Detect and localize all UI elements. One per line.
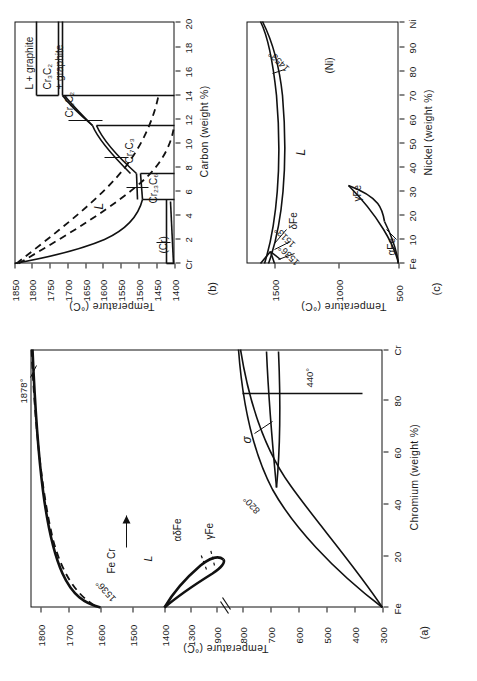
panel-a-ytick-label: 500	[322, 627, 332, 643]
panel-c-xtick-label: 10	[407, 234, 417, 245]
panel-c-xtick-label: 20	[407, 210, 417, 221]
panel-c-xtick	[399, 46, 404, 47]
panel-a-phase-fecr: Fe Cr	[106, 548, 116, 573]
panel-b-xtick	[175, 118, 180, 119]
panel-c-phase-gamma-fe: γFe	[352, 184, 362, 201]
panel-a-ytick	[100, 607, 101, 612]
panel-a-ytick-label: 1600	[96, 624, 106, 646]
figure-page: 300 400 500 600 700 800 900 1300 1400 15…	[0, 0, 477, 681]
panel-a-xtick	[383, 555, 388, 556]
panel-b-phase-cr3c2-graphite-line1: Cr₃C₂	[42, 63, 52, 89]
panel-a-ytick-label: 1500	[128, 624, 138, 646]
panel-b-xtick	[175, 214, 180, 215]
figure-canvas: 300 400 500 600 700 800 900 1300 1400 15…	[0, 0, 477, 681]
panel-b-xtick	[175, 166, 180, 167]
panel-b-phase-cr7c3: Cr₇C₃	[124, 138, 134, 163]
panel-b-y-axis-title: Temperature (°C)	[69, 301, 154, 312]
panel-b-ytick-label: 1500	[134, 279, 144, 301]
panel-a-label-440: 440°	[304, 367, 314, 387]
panel-c-xtick	[399, 70, 404, 71]
panel-a-ytick	[298, 607, 299, 612]
panel-b-xtick-label: 18	[183, 42, 193, 53]
panel-c-fe-ni: 500 1000 1500 Fe 10 20 30 40 50 60 70 80…	[238, 5, 466, 325]
panel-a-ytick	[242, 607, 243, 612]
panel-a-y-axis-title: Temperature (°C)	[183, 643, 268, 654]
panel-b-phase-cr23c6: Cr₂₃C₆	[148, 173, 158, 203]
panel-a-ytick	[270, 607, 271, 612]
panel-b-ytick	[85, 263, 86, 268]
panel-b-ytick	[14, 263, 15, 268]
panel-b-xtick	[175, 142, 180, 143]
panel-b-ytick-label: 1700	[63, 279, 73, 301]
panel-c-phase-liquid: L	[294, 148, 306, 155]
panel-a-ytick-label: 1700	[64, 624, 74, 646]
panel-a-ytick	[164, 607, 165, 612]
panel-c-xtick-label: Ni	[407, 19, 417, 28]
panel-c-xtick	[399, 118, 404, 119]
panel-a-phase-liquid: L	[142, 555, 153, 561]
panel-a-ytick-label: 1400	[160, 624, 170, 646]
panel-c-xtick	[399, 238, 404, 239]
panel-b-ytick	[138, 263, 139, 268]
panel-b-xtick	[175, 190, 180, 191]
panel-b-xtick	[175, 21, 180, 22]
panel-c-phase-delta-fe: δFe	[288, 212, 298, 229]
panel-a-ytick-label: 1800	[36, 624, 46, 646]
panel-a-label-1878: 1878°	[18, 378, 28, 403]
panel-a-fe-cr: 300 400 500 600 700 800 900 1300 1400 15…	[14, 335, 464, 665]
panel-b-ytick-label: 1450	[152, 279, 162, 301]
panel-a-xtick	[383, 451, 388, 452]
panel-a-phase-alpha-delta-fe: αδFe	[172, 518, 182, 541]
panel-a-ytick	[326, 607, 327, 612]
panel-b-xtick-label: 14	[183, 90, 193, 101]
panel-a-xtick-label: Fe	[392, 603, 402, 615]
panel-b-ytick-label: 1600	[98, 279, 108, 301]
panel-c-ytick-label: 500	[394, 285, 404, 301]
panel-c-id: (c)	[430, 282, 441, 295]
panel-c-xtick-label: 50	[407, 138, 417, 149]
panel-c-ytick	[338, 263, 339, 268]
panel-c-xtick-label: 40	[407, 162, 417, 173]
panel-a-ytick	[354, 607, 355, 612]
panel-b-xtick	[175, 46, 180, 47]
panel-c-xtick	[399, 166, 404, 167]
panel-b-phase-cr3c2: Cr₃C₂	[64, 91, 74, 117]
panel-c-xtick	[399, 94, 404, 95]
panel-b-xtick-label: 20	[183, 18, 193, 29]
panel-a-ytick-label: 900	[212, 627, 222, 643]
panel-b-x-axis-title: Carbon (weight %)	[198, 85, 209, 177]
panel-a-xtick-label: 80	[392, 395, 402, 406]
panel-b-ytick	[49, 263, 50, 268]
panel-a-xtick-label: 40	[392, 499, 402, 510]
panel-b-ytick	[120, 263, 121, 268]
panel-a-ytick	[382, 607, 383, 612]
panel-c-xtick-label: Fe	[407, 258, 417, 270]
panel-a-x-axis-title: Chromium (weight %)	[408, 423, 419, 530]
panel-c-ytick-label: 1000	[334, 279, 344, 301]
panel-b-xtick-label: 8	[183, 165, 193, 170]
panel-a-xtick	[383, 349, 388, 350]
panel-b-phase-cr: (Cr)	[158, 236, 168, 253]
panel-b-xtick-label: 12	[183, 114, 193, 125]
panel-b-id: (b)	[206, 282, 217, 295]
panel-b-xtick-label: Cr	[183, 259, 193, 269]
panel-b-ytick	[156, 263, 157, 268]
panel-a-ytick	[40, 607, 41, 612]
panel-a-ytick	[132, 607, 133, 612]
panel-c-xtick-label: 60	[407, 114, 417, 125]
panel-a-xtick	[383, 503, 388, 504]
panel-a-xtick	[383, 399, 388, 400]
panel-b-ytick-label: 1750	[45, 279, 55, 301]
panel-b-ytick	[67, 263, 68, 268]
panel-b-ytick	[174, 263, 175, 268]
panel-b-xtick	[175, 238, 180, 239]
panel-b-xtick-label: 4	[183, 213, 193, 218]
panel-b-ytick-label: 1550	[116, 279, 126, 301]
panel-b-ytick-label: 1800	[27, 279, 37, 301]
panel-b-xtick-label: 2	[183, 237, 193, 242]
panel-a-ytick-label: 300	[378, 627, 388, 643]
panel-b-phase-liquid: L	[92, 202, 104, 209]
panel-b-xtick	[175, 70, 180, 71]
panel-c-x-axis-title: Nickel (weight %)	[422, 89, 433, 175]
panel-a-xtick	[383, 606, 388, 607]
